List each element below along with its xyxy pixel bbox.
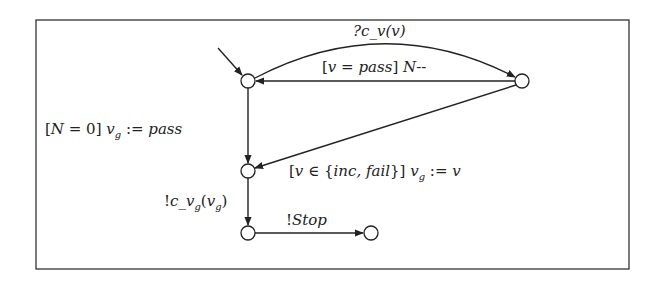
edge-label-n-zero: [N = 0] vg := pass bbox=[45, 120, 183, 140]
edge-label-send-cvg: !c_vg(vg) bbox=[164, 192, 227, 212]
automaton-diagram: ?c_v(v) [v = pass] N-- [N = 0] vg := pas… bbox=[0, 0, 660, 287]
state-node bbox=[515, 74, 529, 88]
state-node bbox=[241, 164, 255, 178]
state-node-final bbox=[364, 226, 378, 240]
state-node bbox=[241, 226, 255, 240]
edge-label-pass-decrement: [v = pass] N-- bbox=[322, 58, 426, 76]
edge-label-receive-cv: ?c_v(v) bbox=[353, 22, 406, 40]
edge-label-inc-fail: [v ∈ {inc, fail}] vg := v bbox=[289, 162, 461, 182]
initial-arrow bbox=[218, 48, 242, 75]
edge-label-stop: !Stop bbox=[286, 211, 327, 229]
edge-n2-n3 bbox=[255, 85, 516, 168]
state-node-initial bbox=[241, 74, 255, 88]
